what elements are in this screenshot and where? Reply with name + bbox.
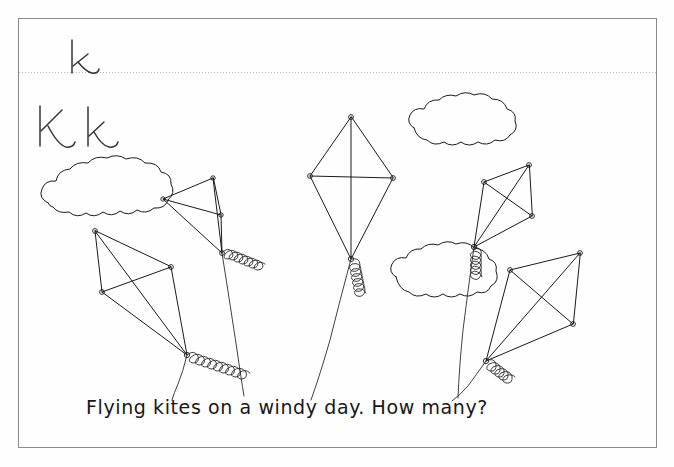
cloud-top-right	[409, 93, 517, 145]
practice-letter-k	[72, 40, 99, 73]
kite-center	[308, 115, 396, 400]
caption-sentence: Flying kites on a windy day. How many?	[86, 396, 488, 418]
kite-tail-lower-right	[486, 360, 515, 384]
kite-tail-upper-right	[470, 247, 482, 279]
cloud-left	[41, 156, 173, 216]
worksheet-page: Flying kites on a windy day. How many?	[0, 0, 674, 467]
kite-tail-upper-left	[222, 249, 265, 270]
kite-tail-center	[350, 259, 367, 297]
model-letter-uppercase-k	[40, 106, 75, 147]
page-border	[19, 19, 657, 448]
worksheet-canvas: Flying kites on a windy day. How many?	[0, 0, 674, 467]
model-letter-lowercase-k	[88, 107, 118, 147]
kite-lower-left	[93, 229, 250, 400]
kite-upper-left	[161, 176, 265, 396]
